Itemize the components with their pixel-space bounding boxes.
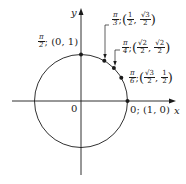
point-pi-over-6 bbox=[119, 76, 123, 80]
origin-label: 0 bbox=[71, 104, 77, 114]
label-pi-over-2: π2; (0, 1) bbox=[38, 34, 78, 49]
leader-pi-over-3 bbox=[105, 25, 109, 56]
x-axis-arrow-icon bbox=[169, 99, 176, 104]
point-pi-over-4 bbox=[112, 66, 116, 70]
label-pi-over-3: π3;(12, √32) bbox=[112, 12, 156, 27]
x-axis-label: x bbox=[174, 106, 180, 116]
label-pi-over-6: π6;(√32, 12) bbox=[129, 70, 173, 85]
point-pi-over-2 bbox=[79, 53, 83, 57]
point-zero bbox=[126, 99, 130, 103]
y-axis-arrow-icon bbox=[79, 8, 84, 15]
y-axis-label: y bbox=[71, 8, 77, 18]
label-pi-over-4: π4;(√22, √22) bbox=[122, 40, 170, 55]
unit-circle-figure bbox=[0, 0, 186, 184]
label-zero: 0; (1, 0) bbox=[130, 105, 170, 115]
point-pi-over-3 bbox=[102, 59, 106, 63]
leader-arrow-pi-over-4-icon bbox=[113, 61, 116, 66]
leader-arrow-pi-over-3-icon bbox=[103, 54, 106, 59]
